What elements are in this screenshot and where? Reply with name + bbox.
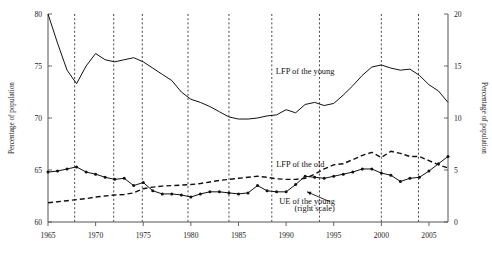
- series-marker: [427, 170, 430, 173]
- series-marker: [47, 171, 50, 174]
- y-tick-label: 75: [34, 62, 42, 71]
- series-marker: [170, 192, 173, 195]
- x-tick-label: 1995: [326, 231, 341, 240]
- series-marker: [66, 167, 69, 170]
- series-line-0: [48, 14, 448, 119]
- series-marker: [294, 183, 297, 186]
- series-marker: [380, 172, 383, 175]
- series-marker: [304, 175, 307, 178]
- y2-tick-label: 0: [454, 218, 458, 227]
- x-tick-label: 1975: [136, 231, 151, 240]
- series-marker: [142, 181, 145, 184]
- series-marker: [361, 167, 364, 170]
- series-marker: [370, 167, 373, 170]
- y-tick-label: 65: [34, 166, 42, 175]
- y2-tick-label: 15: [454, 62, 462, 71]
- series-marker: [161, 192, 164, 195]
- series-marker: [275, 190, 278, 193]
- lfp-old-label: LFP of the old: [276, 160, 325, 169]
- series-marker: [418, 176, 421, 179]
- y-axis-title: Percentage of population: [8, 82, 16, 154]
- x-tick-label: 1970: [88, 231, 103, 240]
- chart-container: 6065707580051015201965197019751980198519…: [0, 0, 492, 258]
- y-tick-label: 80: [34, 10, 42, 19]
- x-tick-label: 1990: [279, 231, 294, 240]
- ue-young-sublabel: (right scale): [295, 204, 335, 213]
- series-marker: [227, 191, 230, 194]
- series-marker: [247, 191, 250, 194]
- lfp-young-label: LFP of the young: [276, 67, 335, 76]
- x-tick-label: 2005: [421, 231, 436, 240]
- y2-axis-title: Percentage of population: [480, 82, 488, 154]
- series-marker: [285, 190, 288, 193]
- y2-tick-label: 10: [454, 114, 462, 123]
- series-marker: [399, 180, 402, 183]
- series-marker: [151, 189, 154, 192]
- series-marker: [342, 173, 345, 176]
- series-marker: [332, 175, 335, 178]
- series-marker: [180, 193, 183, 196]
- series-marker: [104, 176, 107, 179]
- series-marker: [447, 155, 450, 158]
- series-marker: [208, 190, 211, 193]
- series-marker: [389, 174, 392, 177]
- x-tick-label: 1980: [183, 231, 198, 240]
- series-marker: [75, 165, 78, 168]
- x-tick-label: 1965: [40, 231, 55, 240]
- y2-tick-label: 5: [454, 166, 458, 175]
- series-line-2: [48, 151, 448, 202]
- x-tick-label: 1985: [231, 231, 246, 240]
- series-marker: [85, 171, 88, 174]
- series-marker: [218, 190, 221, 193]
- series-marker: [123, 177, 126, 180]
- series-marker: [351, 171, 354, 174]
- line-chart: 6065707580051015201965197019751980198519…: [0, 0, 492, 258]
- y-tick-label: 60: [34, 218, 42, 227]
- series-marker: [237, 192, 240, 195]
- y-tick-label: 70: [34, 114, 42, 123]
- series-marker: [408, 177, 411, 180]
- series-marker: [113, 178, 116, 181]
- series-marker: [189, 196, 192, 199]
- y2-tick-label: 20: [454, 10, 462, 19]
- series-marker: [313, 176, 316, 179]
- series-marker: [132, 184, 135, 187]
- series-marker: [94, 173, 97, 176]
- series-marker: [323, 177, 326, 180]
- series-marker: [199, 192, 202, 195]
- x-tick-label: 2000: [374, 231, 389, 240]
- series-marker: [266, 189, 269, 192]
- series-marker: [256, 184, 259, 187]
- series-marker: [56, 170, 59, 173]
